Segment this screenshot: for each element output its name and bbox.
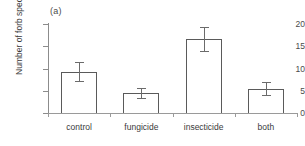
x-axis-tick [235, 113, 236, 117]
error-bar-control [79, 62, 80, 82]
y-axis-title: Number of forb species [14, 0, 24, 86]
x-axis-tick [110, 113, 111, 117]
error-bar-fungicide [141, 88, 142, 98]
x-label-both: both [258, 122, 275, 132]
error-cap-upper-fungicide [137, 88, 146, 89]
figure-panel-a: (a) Number of forb species 05101520 cont… [0, 0, 305, 146]
error-bar-both [266, 82, 267, 94]
error-cap-upper-insecticide [200, 27, 209, 28]
x-label-control: control [66, 122, 92, 132]
error-bar-insecticide [204, 27, 205, 51]
x-axis-tick [48, 113, 49, 117]
error-cap-lower-insecticide [200, 51, 209, 52]
error-cap-upper-both [262, 82, 271, 83]
x-label-insecticide: insecticide [184, 122, 224, 132]
x-axis-tick [173, 113, 174, 117]
error-cap-lower-fungicide [137, 98, 146, 99]
error-cap-lower-both [262, 95, 271, 96]
x-axis-tick [297, 113, 298, 117]
error-cap-lower-control [75, 81, 84, 82]
error-cap-upper-control [75, 62, 84, 63]
x-label-fungicide: fungicide [124, 122, 158, 132]
panel-label: (a) [50, 6, 62, 16]
